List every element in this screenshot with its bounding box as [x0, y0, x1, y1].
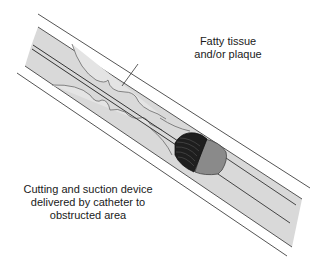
device-label: Cutting and suction device delivered by … [8, 183, 168, 222]
plaque-label: Fatty tissue and/or plaque [178, 35, 278, 61]
device-label-line3: obstructed area [8, 209, 168, 222]
plaque-label-line1: Fatty tissue [178, 35, 278, 48]
plaque-pointer [122, 64, 138, 86]
device-label-line1: Cutting and suction device [8, 183, 168, 196]
guidewire-top [33, 45, 178, 141]
guidewire-bottom [32, 49, 176, 145]
device-label-line2: delivered by catheter to [8, 196, 168, 209]
plaque-label-line2: and/or plaque [178, 48, 278, 61]
